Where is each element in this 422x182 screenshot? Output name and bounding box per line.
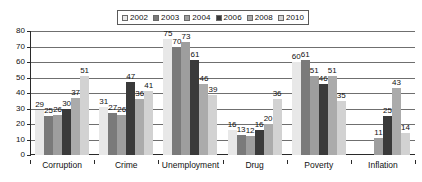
legend-item: 2006 [216,14,242,22]
bar-value-label: 39 [208,86,217,94]
x-axis-label: Crime [94,160,158,174]
bar [71,98,80,155]
y-axis-tick-label: 60 [3,58,25,66]
legend-label: 2004 [192,14,210,22]
legend-label: 2010 [286,14,304,22]
bar-group: 11254314 [351,31,415,155]
y-axis-tick-label: 50 [3,74,25,82]
bar-value-label: 30 [62,100,71,108]
bar-slot: 70 [172,31,181,155]
x-axis-tick-mark [223,160,224,164]
x-axis-tick-mark [30,160,31,164]
bar [337,101,346,155]
bar-slot: 27 [108,31,117,155]
bar [319,84,328,155]
bar [374,138,383,155]
x-axis-labels: CorruptionCrimeUnemploymentDrugPovertyIn… [30,160,415,174]
y-axis-tick-label: 40 [3,89,25,97]
bar-value-label: 73 [181,33,190,41]
bar-group: 161312162036 [223,31,287,155]
bar [163,39,172,155]
bar-value-label: 26 [53,106,62,114]
bar-value-label: 12 [246,127,255,135]
legend-item: 2003 [153,14,179,22]
bar [190,60,199,155]
bar-value-label: 13 [237,126,246,134]
bar [301,60,310,155]
bar-value-label: 26 [117,106,126,114]
bar-slot: 36 [273,31,282,155]
y-axis-tick-mark [27,109,31,110]
bar-value-label: 16 [255,121,264,129]
x-axis-label: Poverty [287,160,351,174]
bar [199,84,208,155]
bar-slot: 51 [80,31,89,155]
legend-swatch-icon [122,15,128,21]
bar [383,116,392,155]
x-axis-label: Corruption [30,160,94,174]
x-axis-tick-mark [287,160,288,164]
legend-swatch-icon [184,15,190,21]
bar [126,82,135,155]
bar-value-label: 20 [264,115,273,123]
bar [172,47,181,156]
legend-label: 2006 [224,14,242,22]
bar-slot [365,31,374,155]
bar-value-label: 51 [328,67,337,75]
bar [255,130,264,155]
bar-chart: 200220032004200620082010 292526303751312… [0,0,422,182]
bar-value-label: 47 [126,73,135,81]
bar-slot: 61 [301,31,310,155]
y-axis-tick-label: 10 [3,136,25,144]
y-axis-tick-mark [27,124,31,125]
bar [144,91,153,155]
bar-value-label: 75 [163,30,172,38]
bar-value-label: 35 [337,92,346,100]
bar [181,42,190,155]
x-axis-label: Drug [223,160,287,174]
bar-value-label: 61 [190,51,199,59]
bar-value-label: 61 [301,51,310,59]
bar-slot: 61 [190,31,199,155]
bar [44,116,53,155]
bar-slot: 26 [53,31,62,155]
bar-group: 292526303751 [30,31,94,155]
y-axis-tick-label: 80 [3,27,25,35]
bar-slot: 75 [163,31,172,155]
legend-swatch-icon [153,15,159,21]
bar-value-label: 36 [273,90,282,98]
bar [328,76,337,155]
y-axis-tick-mark [27,31,31,32]
bar-value-label: 37 [71,89,80,97]
bar-value-label: 25 [383,107,392,115]
bar-slot: 25 [383,31,392,155]
bar-value-label: 36 [135,90,144,98]
bar [62,109,71,156]
bar [208,95,217,155]
bar-slot: 30 [62,31,71,155]
y-axis-tick-mark [27,62,31,63]
legend-swatch-icon [216,15,222,21]
bar-value-label: 46 [319,75,328,83]
bar-slot: 25 [44,31,53,155]
chart-legend: 200220032004200620082010 [117,10,309,25]
y-axis-tick-mark [27,47,31,48]
legend-label: 2008 [255,14,273,22]
bar-slot: 41 [144,31,153,155]
bar-slot: 16 [255,31,264,155]
bar-slot: 29 [35,31,44,155]
bar-value-label: 51 [310,67,319,75]
legend-item: 2010 [278,14,304,22]
bar-groups: 2925263037513127264736417570736146391613… [30,31,415,155]
legend-swatch-icon [247,15,253,21]
bar-slot: 16 [228,31,237,155]
bar-slot: 47 [126,31,135,155]
y-axis-tick-mark [27,140,31,141]
legend-item: 2008 [247,14,273,22]
bar-group: 757073614639 [158,31,222,155]
bar-slot: 36 [135,31,144,155]
bar-value-label: 29 [35,101,44,109]
bar-value-label: 51 [80,67,89,75]
y-axis-tick-mark [27,78,31,79]
bar-slot: 20 [264,31,273,155]
